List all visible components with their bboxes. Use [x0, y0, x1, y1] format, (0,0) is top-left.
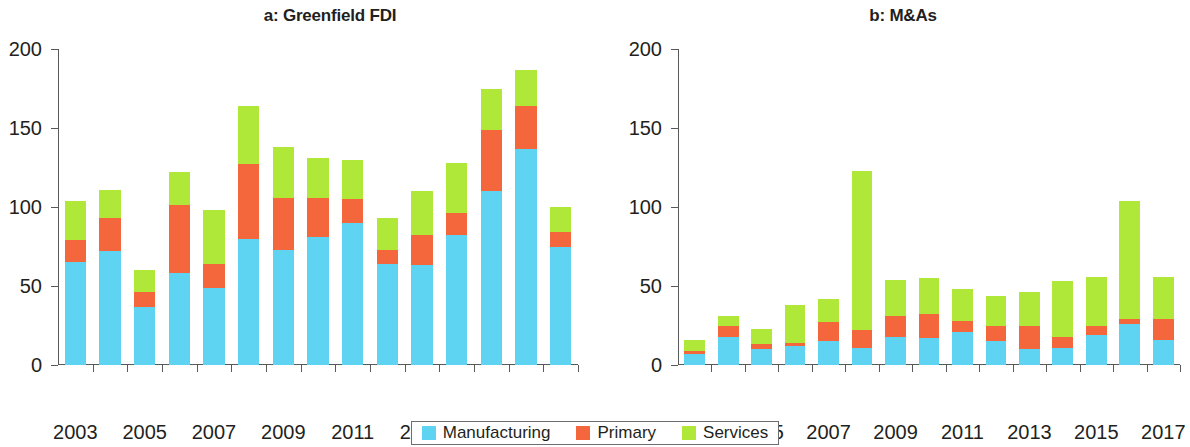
bar-2003[interactable]	[65, 201, 86, 365]
x-axis-tick	[474, 365, 475, 372]
bar-segment-primary	[134, 292, 155, 306]
x-axis-tick	[197, 365, 198, 372]
panel-a-title: a: Greenfield FDI	[0, 6, 630, 26]
bar-segment-primary	[411, 235, 432, 265]
y-axis-tick: 0	[51, 365, 58, 366]
bar-2011[interactable]	[952, 289, 973, 365]
bar-segment-services	[550, 207, 571, 232]
y-axis-tick: 150	[51, 128, 58, 129]
bar-2016[interactable]	[515, 70, 536, 365]
bar-segment-manufacturing	[684, 354, 705, 365]
bar-segment-manufacturing	[377, 264, 398, 365]
bar-2007[interactable]	[818, 299, 839, 365]
bar-segment-primary	[515, 106, 536, 149]
panel-greenfield-fdi: a: Greenfield FDI 0501001502002003200520…	[0, 0, 600, 400]
bar-2010[interactable]	[307, 158, 328, 365]
x-axis-tick	[845, 365, 846, 372]
bar-2013[interactable]	[1019, 292, 1040, 365]
bar-segment-primary	[1019, 326, 1040, 350]
bar-segment-primary	[952, 321, 973, 332]
bar-2008[interactable]	[852, 171, 873, 365]
y-axis-tick-label: 200	[629, 38, 662, 61]
legend-swatch-manufacturing	[422, 426, 436, 440]
bar-segment-manufacturing	[65, 262, 86, 365]
bar-segment-services	[65, 201, 86, 241]
bar-segment-manufacturing	[411, 265, 432, 365]
bar-2010[interactable]	[919, 278, 940, 365]
bar-2009[interactable]	[885, 280, 906, 365]
bar-2014[interactable]	[1052, 281, 1073, 365]
legend-swatch-primary	[576, 426, 590, 440]
bar-segment-manufacturing	[718, 337, 739, 365]
y-axis-tick-label: 0	[651, 354, 662, 377]
x-axis-tick	[127, 365, 128, 372]
legend-item-services[interactable]: Services	[682, 424, 768, 441]
bar-segment-manufacturing	[99, 251, 120, 365]
bar-segment-services	[411, 191, 432, 235]
y-axis-tick: 50	[671, 286, 678, 287]
bar-segment-manufacturing	[952, 332, 973, 365]
bar-2013[interactable]	[411, 191, 432, 365]
x-axis-tick	[93, 365, 94, 372]
bar-2011[interactable]	[342, 160, 363, 365]
y-axis-tick: 200	[671, 49, 678, 50]
x-axis-tick	[946, 365, 947, 372]
legend-label: Manufacturing	[443, 424, 551, 441]
bar-segment-manufacturing	[273, 250, 294, 365]
bar-segment-primary	[238, 164, 259, 238]
x-axis-tick	[778, 365, 779, 372]
bar-segment-manufacturing	[238, 239, 259, 365]
bar-segment-primary	[1153, 319, 1174, 340]
bar-2017[interactable]	[550, 207, 571, 365]
bar-2006[interactable]	[169, 172, 190, 365]
bar-2017[interactable]	[1153, 277, 1174, 365]
x-axis-tick	[509, 365, 510, 372]
bar-segment-services	[307, 158, 328, 198]
bar-segment-manufacturing	[134, 307, 155, 365]
bar-segment-primary	[169, 205, 190, 273]
bar-2006[interactable]	[785, 305, 806, 365]
bar-2015[interactable]	[481, 89, 502, 365]
bar-segment-manufacturing	[919, 338, 940, 365]
x-axis-tick	[405, 365, 406, 372]
bar-segment-manufacturing	[203, 288, 224, 365]
bar-segment-services	[203, 210, 224, 264]
bar-segment-manufacturing	[885, 337, 906, 365]
legend-item-primary[interactable]: Primary	[576, 424, 656, 441]
bar-2014[interactable]	[446, 163, 467, 365]
bar-2008[interactable]	[238, 106, 259, 365]
bar-segment-services	[169, 172, 190, 205]
bar-segment-primary	[818, 322, 839, 341]
bar-2012[interactable]	[986, 296, 1007, 366]
bar-2016[interactable]	[1119, 201, 1140, 365]
bar-segment-primary	[718, 326, 739, 337]
bar-segment-manufacturing	[1119, 324, 1140, 365]
bar-segment-manufacturing	[1086, 335, 1107, 365]
bar-2015[interactable]	[1086, 277, 1107, 365]
figure-root: a: Greenfield FDI 0501001502002003200520…	[0, 0, 1190, 447]
bar-segment-primary	[377, 250, 398, 264]
bar-segment-primary	[342, 199, 363, 223]
bar-segment-manufacturing	[785, 346, 806, 365]
legend-label: Services	[703, 424, 768, 441]
legend-item-manufacturing[interactable]: Manufacturing	[422, 424, 551, 441]
bar-2004[interactable]	[718, 316, 739, 365]
x-axis-tick	[745, 365, 746, 372]
bar-segment-services	[986, 296, 1007, 326]
bar-segment-services	[1153, 277, 1174, 320]
bar-2012[interactable]	[377, 218, 398, 365]
bar-segment-services	[1119, 201, 1140, 320]
bar-2004[interactable]	[99, 190, 120, 365]
bar-2003[interactable]	[684, 340, 705, 365]
legend-label: Primary	[597, 424, 656, 441]
bar-2005[interactable]	[134, 270, 155, 365]
x-axis-tick	[543, 365, 544, 372]
bar-segment-services	[818, 299, 839, 323]
x-axis-tick	[711, 365, 712, 372]
bar-2009[interactable]	[273, 147, 294, 365]
bar-2005[interactable]	[751, 329, 772, 365]
bar-2007[interactable]	[203, 210, 224, 365]
x-axis-tick	[812, 365, 813, 372]
y-axis-tick-label: 0	[31, 354, 42, 377]
bar-segment-primary	[481, 130, 502, 192]
